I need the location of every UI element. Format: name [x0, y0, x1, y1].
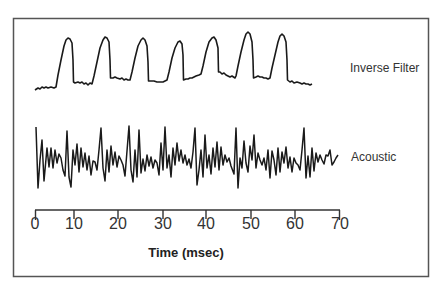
x-tick-label: 50	[242, 215, 260, 233]
acoustic-label: Acoustic	[351, 150, 396, 164]
x-tick-label: 0	[31, 215, 40, 233]
inverse-filter-label: Inverse Filter	[350, 61, 419, 75]
x-tick-label: 30	[154, 215, 172, 233]
x-tick-label: 20	[109, 215, 127, 233]
x-tick-label: 60	[286, 215, 304, 233]
acoustic-trace	[36, 126, 338, 188]
x-tick-label: 70	[331, 215, 349, 233]
x-tick-label: 10	[65, 215, 83, 233]
x-axis-title: Time (msec)	[0, 245, 372, 260]
x-tick-label: 40	[197, 215, 215, 233]
inverse-filter-trace	[35, 32, 312, 90]
